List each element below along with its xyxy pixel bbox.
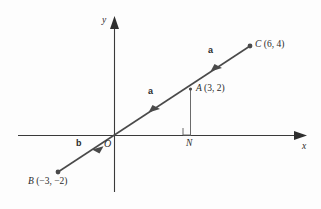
point-label-A: A (3, 2) [196,84,225,94]
vector-label-a-second: a [208,46,213,55]
perpendicular-A-to-N [183,89,191,136]
foot-point-label-N: N [186,139,192,149]
point-coords-A: (3, 2) [204,83,225,93]
point-marker-B [56,170,61,175]
point-marker-C [248,44,253,49]
point-name-A: A [196,83,204,93]
vector-coordinate-diagram: y x O N b a a C (6, 4) A (3, 2) B (−3, −… [0,0,321,209]
y-axis-arrowhead [110,16,119,29]
point-name-C: C [255,39,264,49]
y-axis [110,16,119,192]
point-label-C: C (6, 4) [255,40,284,50]
x-axis-arrowhead [294,131,307,140]
point-name-B: B [28,176,36,186]
vector-b-arrowhead [92,146,104,153]
origin-label: O [104,139,111,149]
right-angle-marker [183,128,191,135]
x-axis-label: x [302,142,306,152]
x-axis [18,131,307,140]
vector-label-b: b [76,139,82,148]
point-label-B: B (−3, −2) [28,177,67,187]
vector-label-a-first: a [148,87,153,96]
point-coords-B: (−3, −2) [36,176,67,186]
y-axis-label: y [102,16,106,26]
point-marker-A [189,87,192,90]
vector-line-BAC [56,44,253,175]
point-coords-C: (6, 4) [264,39,285,49]
